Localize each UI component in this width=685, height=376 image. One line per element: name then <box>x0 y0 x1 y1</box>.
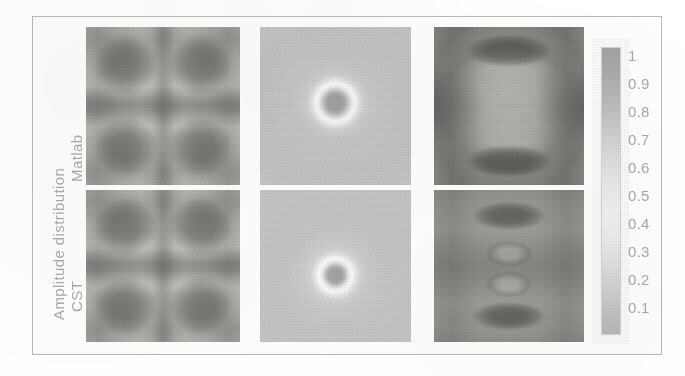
axis-label-amplitude-distribution: Amplitude distribution <box>50 168 67 320</box>
heatmap-field-image <box>434 190 584 342</box>
colorbar-tick-0-9: 0.9 <box>628 75 650 92</box>
row-label-matlab: Matlab <box>68 135 85 182</box>
colorbar-tick-0-7: 0.7 <box>628 131 650 148</box>
figure-root: Amplitude distribution Matlab CST 1 0.9 <box>0 0 685 376</box>
heatmap-field-image <box>260 27 411 185</box>
colorbar-tick-0-4: 0.4 <box>628 215 650 232</box>
heatmap-field-image <box>260 190 411 342</box>
heatmap-panel-matlab-mode-1 <box>86 27 240 185</box>
colorbar-tick-1: 1 <box>628 47 637 64</box>
heatmap-panel-cst-mode-2 <box>260 190 411 342</box>
mode-cross-band-overlay <box>86 27 240 185</box>
colorbar-tick-0-8: 0.8 <box>628 103 650 120</box>
heatmap-field-image <box>434 27 584 185</box>
colorbar-gradient <box>601 47 621 335</box>
colorbar-tick-0-6: 0.6 <box>628 159 650 176</box>
heatmap-panel-matlab-mode-2 <box>260 27 411 185</box>
mode-cross-band-overlay <box>86 190 240 342</box>
heatmap-panel-matlab-mode-3 <box>434 27 584 185</box>
heatmap-panel-cst-mode-1 <box>86 190 240 342</box>
heatmap-panel-cst-mode-3 <box>434 190 584 342</box>
colorbar-tick-0-2: 0.2 <box>628 271 650 288</box>
colorbar-tick-0-3: 0.3 <box>628 243 650 260</box>
colorbar-tick-0-1: 0.1 <box>628 299 650 316</box>
row-label-cst: CST <box>68 281 85 312</box>
colorbar-tick-0-5: 0.5 <box>628 187 650 204</box>
